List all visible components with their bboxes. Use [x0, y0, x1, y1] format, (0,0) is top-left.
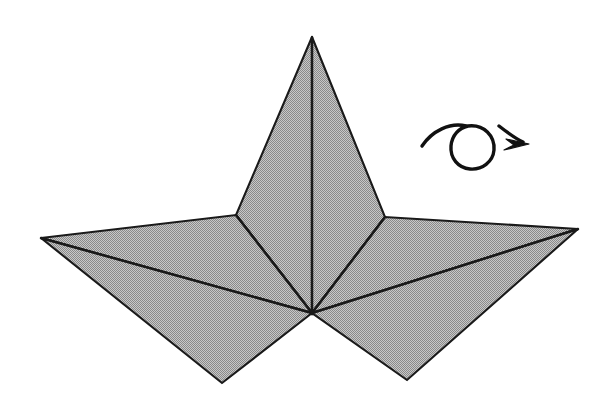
rotation-icon — [422, 125, 529, 169]
rotation-arrowhead-icon — [504, 139, 529, 150]
figure-canvas — [0, 0, 611, 406]
rotation-circle-icon — [451, 126, 494, 169]
geometric-figure-svg — [0, 0, 611, 406]
facet-group — [41, 37, 578, 383]
